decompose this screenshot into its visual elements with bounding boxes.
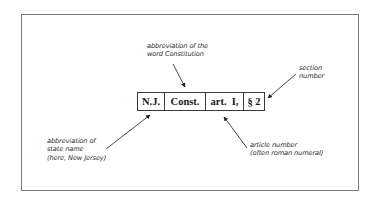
label-state-line3: (here, New Jersey) xyxy=(47,154,106,162)
label-article: article number (often roman numeral) xyxy=(250,141,323,158)
label-constitution-line2: word Constitution xyxy=(147,50,208,58)
label-section-line2: number xyxy=(299,72,324,80)
citation-state: N.J. xyxy=(138,93,165,110)
citation-article: art. I, xyxy=(206,93,244,110)
label-article-line2: (often roman numeral) xyxy=(250,149,323,157)
label-section-line1: section xyxy=(299,64,324,72)
label-constitution-line1: abbreviation of the xyxy=(147,42,208,50)
label-article-line1: article number xyxy=(250,141,323,149)
label-state-line2: state name xyxy=(47,145,106,153)
label-section: section number xyxy=(299,64,324,81)
citation-box: N.J. Const. art. I, § 2 xyxy=(137,92,265,111)
citation-const: Const. xyxy=(165,93,206,110)
label-state-line1: abbreviation of xyxy=(47,137,106,145)
label-constitution: abbreviation of the word Constitution xyxy=(147,42,208,59)
label-state: abbreviation of state name (here, New Je… xyxy=(47,137,106,162)
citation-section: § 2 xyxy=(244,93,264,110)
